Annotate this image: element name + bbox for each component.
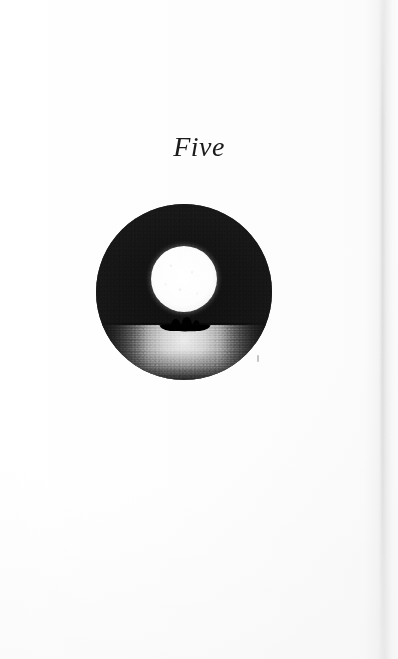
- scan-speck: [257, 355, 259, 362]
- chapter-title: Five: [0, 133, 398, 161]
- illustration-clip: [96, 204, 272, 380]
- moon-icon: [151, 246, 217, 312]
- boat-silhouette-icon: [158, 316, 212, 332]
- chapter-illustration: [96, 204, 272, 380]
- page-edge-shadow: [364, 0, 398, 659]
- water-vignette: [96, 324, 272, 380]
- scanned-book-page: Five: [0, 0, 398, 659]
- page-edge-line: [381, 0, 384, 659]
- moon-grain: [151, 246, 217, 312]
- moonlit-water: [96, 324, 272, 380]
